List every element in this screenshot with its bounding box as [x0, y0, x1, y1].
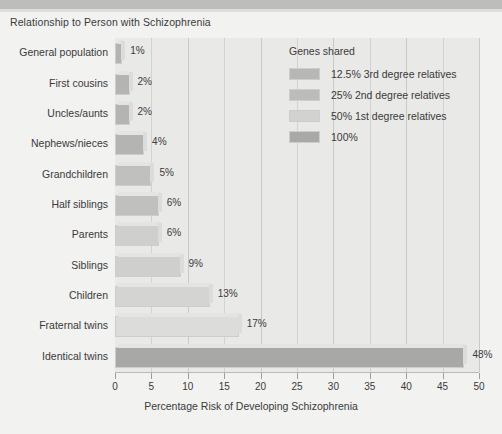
x-tick-40 [406, 373, 407, 379]
bar[interactable] [115, 74, 130, 95]
bar-top-face [118, 253, 182, 257]
x-tick-label: 35 [364, 381, 375, 392]
bar-side-face [463, 345, 467, 364]
bar-top-face [118, 313, 240, 317]
bar[interactable] [115, 225, 159, 246]
chart-title: Relationship to Person with Schizophreni… [10, 16, 211, 28]
x-tick-35 [370, 373, 371, 379]
legend-entry[interactable]: 100% [289, 127, 471, 146]
bar[interactable] [115, 134, 144, 155]
x-tick-30 [333, 373, 334, 379]
bar-side-face [143, 132, 147, 151]
legend-label: 25% 2nd degree relatives [331, 89, 450, 101]
x-tick-10 [188, 373, 189, 379]
legend-label: 50% 1st degree relatives [331, 110, 447, 122]
page-top-band-shadow [0, 9, 502, 12]
category-label: Half siblings [51, 198, 108, 210]
bar[interactable] [115, 43, 122, 64]
x-tick-label: 50 [473, 381, 484, 392]
bar-side-face [121, 41, 125, 60]
bar-value-label: 5% [159, 167, 173, 178]
x-tick-45 [443, 373, 444, 379]
x-tick-25 [297, 373, 298, 379]
bar[interactable] [115, 347, 464, 368]
legend-entry[interactable]: 12.5% 3rd degree relatives [289, 64, 471, 83]
legend-entry[interactable]: 25% 2nd degree relatives [289, 85, 471, 104]
bar-top-face [118, 131, 145, 135]
category-label: Fraternal twins [39, 319, 108, 331]
category-label: Parents [72, 228, 108, 240]
bar-value-label: 4% [152, 136, 166, 147]
legend-title: Genes shared [289, 45, 471, 57]
x-tick-50 [479, 373, 480, 379]
bar-side-face [180, 254, 184, 273]
bar-row: 6% [115, 222, 479, 248]
x-tick-label: 30 [328, 381, 339, 392]
bar[interactable] [115, 286, 210, 307]
category-label: Siblings [71, 259, 108, 271]
category-label: General population [19, 46, 108, 58]
x-tick-label: 25 [291, 381, 302, 392]
bar-side-face [129, 72, 133, 91]
bar-value-label: 2% [138, 76, 152, 87]
category-label: Grandchildren [42, 168, 108, 180]
bar-side-face [158, 193, 162, 212]
bar-row: 48% [115, 344, 479, 370]
bar[interactable] [115, 104, 130, 125]
x-tick-label: 45 [437, 381, 448, 392]
category-label: First cousins [49, 77, 108, 89]
gridline-50 [479, 38, 480, 372]
bar-row: 17% [115, 313, 479, 339]
x-tick-5 [151, 373, 152, 379]
bar-row: 13% [115, 283, 479, 309]
bar-top-face [118, 283, 211, 287]
bar[interactable] [115, 165, 151, 186]
bar-row: 6% [115, 192, 479, 218]
bar-value-label: 48% [472, 349, 492, 360]
bar-row: 5% [115, 162, 479, 188]
x-tick-label: 0 [112, 381, 118, 392]
bar-side-face [150, 163, 154, 182]
x-tick-label: 20 [255, 381, 266, 392]
x-tick-15 [224, 373, 225, 379]
bar-value-label: 9% [189, 258, 203, 269]
x-tick-label: 15 [219, 381, 230, 392]
legend-swatch [289, 68, 320, 80]
x-tick-20 [261, 373, 262, 379]
bar-value-label: 6% [167, 227, 181, 238]
bar[interactable] [115, 195, 159, 216]
category-label: Uncles/aunts [47, 107, 108, 119]
legend-swatch [289, 110, 320, 122]
legend-entries: 12.5% 3rd degree relatives25% 2nd degree… [289, 64, 471, 146]
legend-swatch [289, 131, 320, 143]
bar-value-label: 13% [218, 288, 238, 299]
legend: Genes shared 12.5% 3rd degree relatives2… [289, 45, 471, 148]
bar-top-face [118, 344, 465, 348]
x-axis-title: Percentage Risk of Developing Schizophre… [0, 400, 502, 412]
bar-side-face [129, 102, 133, 121]
chart-page: Relationship to Person with Schizophreni… [0, 0, 502, 434]
category-label: Identical twins [42, 350, 108, 362]
page-top-band [0, 0, 502, 9]
x-tick-label: 10 [182, 381, 193, 392]
bar[interactable] [115, 316, 239, 337]
bar-value-label: 17% [247, 318, 267, 329]
bar-value-label: 1% [130, 45, 144, 56]
legend-label: 100% [331, 131, 358, 143]
category-label: Children [69, 289, 108, 301]
bar-top-face [118, 222, 160, 226]
bar-side-face [158, 223, 162, 242]
bar-side-face [238, 314, 242, 333]
bar-value-label: 6% [167, 197, 181, 208]
legend-swatch [289, 89, 320, 101]
bar-value-label: 2% [138, 106, 152, 117]
x-tick-label: 5 [149, 381, 155, 392]
legend-entry[interactable]: 50% 1st degree relatives [289, 106, 471, 125]
category-label: Nephews/nieces [31, 137, 108, 149]
bar-top-face [118, 162, 152, 166]
bar[interactable] [115, 256, 181, 277]
bar-row: 9% [115, 253, 479, 279]
bar-side-face [209, 284, 213, 303]
x-tick-0 [115, 373, 116, 379]
x-tick-label: 40 [401, 381, 412, 392]
